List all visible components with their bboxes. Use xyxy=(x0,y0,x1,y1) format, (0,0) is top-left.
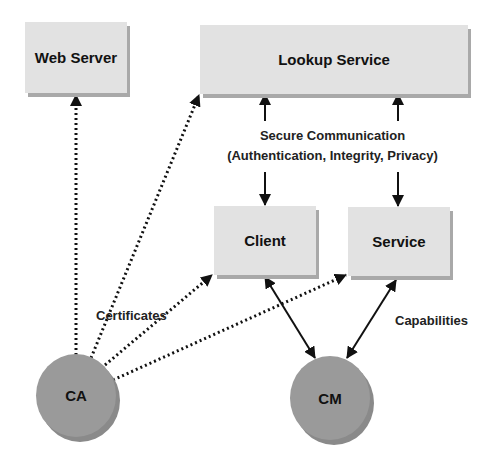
secure-communication-sublabel: (Authentication, Integrity, Privacy) xyxy=(0,148,500,163)
ca-node: CA xyxy=(36,354,116,437)
web-server-node: Web Server xyxy=(25,22,127,93)
secure-communication-label: Secure Communication xyxy=(0,128,500,143)
lookup-service-label: Lookup Service xyxy=(278,51,390,68)
service-label: Service xyxy=(372,233,425,250)
certificates-label: Certificates xyxy=(96,308,167,323)
client-node: Client xyxy=(214,206,316,275)
cm-label: CM xyxy=(318,390,341,407)
service-node: Service xyxy=(348,207,450,276)
capability-arrow-client-cm xyxy=(265,277,315,358)
lookup-service-node: Lookup Service xyxy=(200,25,468,94)
ca-label: CA xyxy=(65,387,87,404)
web-server-label: Web Server xyxy=(35,49,117,66)
capability-arrow-service-cm xyxy=(347,280,396,358)
client-label: Client xyxy=(244,232,286,249)
capabilities-label: Capabilities xyxy=(395,313,468,328)
cm-node: CM xyxy=(290,356,370,440)
